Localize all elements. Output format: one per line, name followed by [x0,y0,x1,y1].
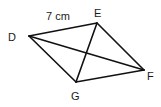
vertex-label-g: G [71,90,80,102]
diagonal-eg [76,23,97,82]
vertex-label-f: F [147,70,154,82]
side-fg [76,70,144,82]
vertex-label-d: D [8,31,16,43]
diagram-canvas: 7 cm D E F G [0,0,161,107]
rhombus-figure: 7 cm D E F G [0,0,161,107]
side-de [29,23,97,36]
measurement-label-de: 7 cm [46,10,70,22]
vertex-label-e: E [94,7,101,19]
